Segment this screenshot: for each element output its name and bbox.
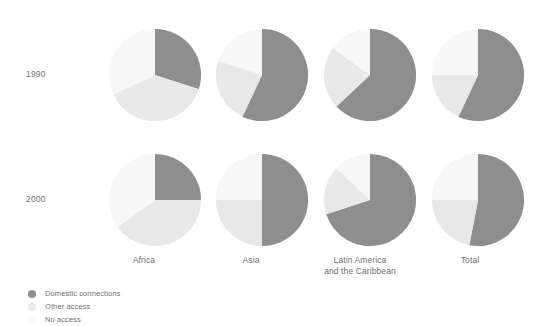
pie-chart-latin-america-1990	[322, 27, 418, 123]
pie-chart-asia-1990	[214, 27, 310, 123]
pie-chart-africa-2000	[107, 152, 203, 248]
legend-label-no-access: No access	[45, 315, 81, 324]
pie-slice	[262, 154, 308, 246]
pie-chart-africa-1990	[107, 27, 203, 123]
column-label-latin-america-line2: and the Caribbean	[290, 266, 430, 277]
pie-slice	[216, 200, 262, 246]
row-label-1990: 1990	[26, 69, 46, 79]
pie-svg-africa-2000	[107, 152, 203, 248]
chart-legend: Domestic connections Other access No acc…	[28, 288, 120, 326]
legend-label-other-access: Other access	[45, 302, 90, 311]
pie-svg-latin-america-2000	[322, 152, 418, 248]
pie-svg-total-1990	[430, 27, 526, 123]
legend-swatch-other-access-icon	[28, 303, 36, 311]
legend-item-other-access: Other access	[28, 301, 120, 312]
pie-chart-figure: 1990 2000 Africa Asia Latin America and …	[0, 0, 539, 326]
row-label-2000: 2000	[26, 194, 46, 204]
legend-item-no-access: No access	[28, 314, 120, 325]
legend-label-domestic-connections: Domestic connections	[45, 289, 120, 298]
pie-svg-latin-america-1990	[322, 27, 418, 123]
column-label-total-line1: Total	[400, 255, 539, 266]
pie-chart-asia-2000	[214, 152, 310, 248]
pie-chart-latin-america-2000	[322, 152, 418, 248]
pie-svg-asia-1990	[214, 27, 310, 123]
pie-slice	[432, 29, 478, 75]
legend-swatch-domestic-connections-icon	[28, 290, 36, 298]
pie-slice	[432, 154, 478, 200]
legend-swatch-no-access-icon	[28, 316, 36, 324]
pie-svg-africa-1990	[107, 27, 203, 123]
pie-chart-total-1990	[430, 27, 526, 123]
legend-item-domestic-connections: Domestic connections	[28, 288, 120, 299]
pie-svg-total-2000	[430, 152, 526, 248]
pie-chart-total-2000	[430, 152, 526, 248]
pie-svg-asia-2000	[214, 152, 310, 248]
pie-slice	[216, 154, 262, 200]
column-label-total: Total	[400, 255, 539, 266]
pie-slice	[155, 154, 201, 200]
